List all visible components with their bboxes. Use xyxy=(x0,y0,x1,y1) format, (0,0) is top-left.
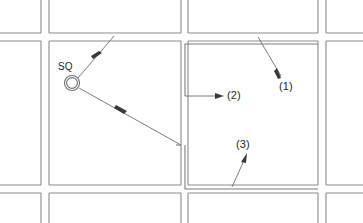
callout-3-label: (3) xyxy=(236,139,250,150)
inner-lining-right-room-lower xyxy=(185,145,318,189)
sq-symbol-inner-ring xyxy=(67,78,78,89)
sq-leader-lower-line xyxy=(79,88,181,145)
sq-leader-upper xyxy=(78,36,114,78)
sq-leader-upper-arrowhead xyxy=(91,51,102,59)
sq-symbol-label: SQ xyxy=(58,62,73,72)
inner-lining-right-room xyxy=(185,44,318,96)
sq-leader-lower-arrowhead xyxy=(114,105,127,114)
callout-3-leader xyxy=(232,153,247,187)
callout-1-label: (1) xyxy=(279,81,293,92)
callout-3-arrowhead xyxy=(241,153,247,163)
callout-2-leader xyxy=(185,93,224,99)
sq-symbol[interactable] xyxy=(65,76,80,91)
plan-drawing-canvas xyxy=(0,0,363,223)
inner-partition-lines xyxy=(176,44,318,189)
callout-2-arrowhead xyxy=(215,93,224,99)
callout-2-label: (2) xyxy=(227,90,241,101)
sq-leader-lower xyxy=(79,88,181,145)
floor-plan-diagram: SQ (1) (2) (3) xyxy=(0,0,363,223)
callout-1-leader xyxy=(258,37,281,79)
